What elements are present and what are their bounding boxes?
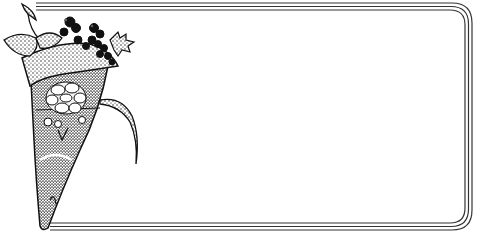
bouquet-cone-illustration	[0, 0, 160, 238]
ribbon-tail	[100, 99, 137, 164]
illustration-canvas	[0, 0, 482, 238]
holly-leaf	[110, 32, 134, 56]
